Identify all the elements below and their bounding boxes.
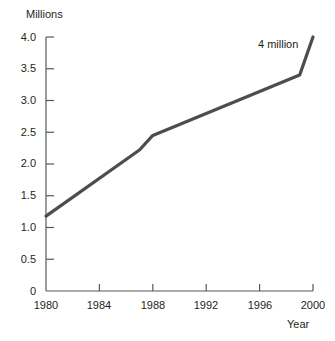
line-chart: Millions Year 4 million 4.0 3.5 3.0 2.5 … <box>0 0 335 341</box>
plot-area <box>0 0 335 341</box>
axis-spines <box>46 37 313 291</box>
x-axis-ticks <box>99 284 313 291</box>
data-line-series <box>46 37 313 216</box>
y-axis-ticks <box>46 37 54 259</box>
